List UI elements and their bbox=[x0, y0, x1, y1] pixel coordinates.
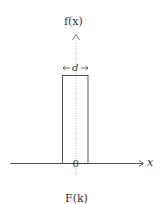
left-arrow-icon bbox=[63, 66, 70, 70]
width-label: d bbox=[72, 62, 78, 73]
rect-pulse bbox=[63, 76, 89, 164]
origin-label: 0 bbox=[73, 158, 79, 169]
right-width-arrow-icon bbox=[81, 66, 88, 70]
up-arrow-icon bbox=[73, 35, 80, 41]
caption: F(k) bbox=[65, 193, 88, 204]
y-axis-label: f(x) bbox=[64, 16, 83, 27]
diagram-canvas bbox=[0, 0, 164, 204]
x-axis-label: x bbox=[147, 157, 153, 168]
